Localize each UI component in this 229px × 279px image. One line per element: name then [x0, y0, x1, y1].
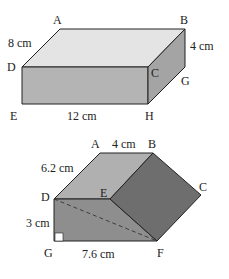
dimension-label-DG: 3 cm [26, 216, 50, 230]
vertex-label-A: A [53, 13, 62, 27]
prism-figure: A B C D E F G 4 cm 6.2 cm 3 cm 7.6 cm [26, 137, 207, 261]
vertex-label-D: D [7, 60, 16, 74]
dimension-label-BG: 4 cm [190, 39, 214, 53]
vertex-label-C: C [151, 66, 159, 80]
dimension-label-GF: 7.6 cm [82, 247, 115, 261]
vertex-label-B-prism: B [148, 137, 156, 151]
vertex-label-B: B [180, 13, 188, 27]
diagram-canvas: A B C D E G H 8 cm 4 cm 12 cm A B C D E … [0, 0, 229, 279]
cuboid-figure: A B C D E G H 8 cm 4 cm 12 cm [7, 13, 214, 123]
dimension-label-AD: 8 cm [8, 36, 32, 50]
vertex-label-G: G [181, 74, 190, 88]
dimension-label-AB: 4 cm [112, 137, 136, 151]
cuboid-front-face [22, 67, 148, 104]
vertex-label-C-prism: C [199, 180, 207, 194]
vertex-label-F-prism: F [157, 246, 164, 260]
right-angle-marker [55, 233, 63, 241]
vertex-label-A-prism: A [91, 137, 100, 151]
vertex-label-H: H [145, 109, 154, 123]
vertex-label-E: E [10, 109, 17, 123]
vertex-label-G-prism: G [44, 246, 53, 260]
dimension-label-AD-prism: 6.2 cm [41, 161, 74, 175]
vertex-label-E-prism: E [100, 186, 107, 200]
dimension-label-EH: 12 cm [67, 109, 97, 123]
vertex-label-D-prism: D [41, 190, 50, 204]
